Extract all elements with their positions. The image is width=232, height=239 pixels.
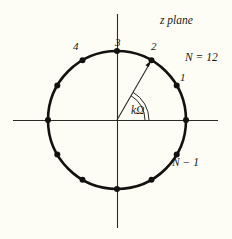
root-point-8 <box>80 177 86 183</box>
root-point-9 <box>114 186 120 192</box>
point-label-4: 4 <box>73 41 79 52</box>
point-label-1: 1 <box>180 72 186 83</box>
z-plane-unit-circle-figure: z plane N = 12 4 3 2 1 N − 1 kΩ <box>0 0 232 239</box>
point-label-n-minus-1: N − 1 <box>172 157 199 169</box>
angle-label: kΩ <box>131 105 144 117</box>
root-point-5 <box>54 83 60 89</box>
root-point-0 <box>183 117 189 123</box>
root-point-2 <box>149 57 155 63</box>
root-point-10 <box>149 177 155 183</box>
root-point-1 <box>174 83 180 89</box>
root-point-7 <box>54 152 60 158</box>
root-point-6 <box>45 117 51 123</box>
z-plane-label: z plane <box>160 15 193 27</box>
root-point-3 <box>114 48 120 54</box>
root-point-4 <box>80 57 86 63</box>
n-value-label: N = 12 <box>185 52 218 64</box>
point-label-2: 2 <box>151 41 157 52</box>
point-label-3: 3 <box>115 37 121 48</box>
